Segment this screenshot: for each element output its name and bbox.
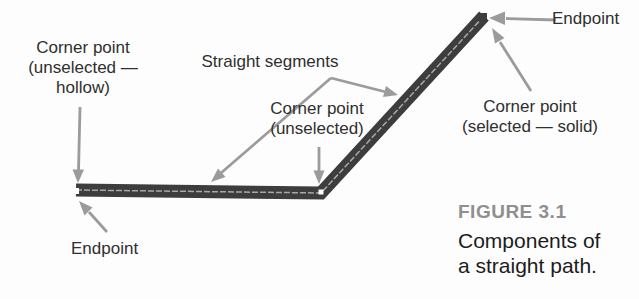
figure-caption-line: Components of bbox=[458, 228, 633, 253]
callout-straight-segments: Straight segments bbox=[190, 52, 350, 72]
arrow-straight-segments-to-diagonal-segment bbox=[331, 78, 398, 97]
endpoint-selected-solid-anchor bbox=[479, 13, 487, 21]
arrowhead-icon bbox=[73, 170, 85, 184]
callout-endpoint-bottom: Endpoint bbox=[71, 239, 156, 259]
endpoint-hollow-anchor bbox=[73, 188, 79, 194]
arrow-corner-unselected-to-corner-point bbox=[314, 147, 325, 184]
callout-line: Endpoint bbox=[71, 239, 156, 259]
arrow-endpoint-top-to-top-endpoint bbox=[489, 12, 556, 26]
arrow-endpoint-bottom-to-left-endpoint bbox=[79, 201, 107, 232]
callout-line: Endpoint bbox=[552, 9, 637, 29]
callout-line: Corner point bbox=[247, 99, 387, 119]
callout-corner-point-selected: Corner point (selected — solid) bbox=[450, 97, 610, 137]
figure-caption-line: a straight path. bbox=[458, 253, 633, 278]
arrow-corner-hollow-to-left-endpoint bbox=[73, 107, 85, 183]
callout-endpoint-top: Endpoint bbox=[552, 9, 637, 29]
callout-line: (unselected — bbox=[3, 58, 163, 78]
figure-caption-block: FIGURE 3.1 Components of a straight path… bbox=[458, 201, 633, 278]
callout-corner-point-unselected: Corner point (unselected) bbox=[247, 99, 387, 139]
figure-number-label: FIGURE 3.1 bbox=[458, 201, 633, 223]
arrow-corner-selected-to-top-endpoint bbox=[492, 28, 531, 91]
arrowhead-icon bbox=[492, 28, 505, 44]
arrowhead-icon bbox=[383, 86, 398, 97]
callout-line: hollow) bbox=[3, 78, 163, 98]
callout-line: Corner point bbox=[3, 38, 163, 58]
callout-line: Corner point bbox=[450, 97, 610, 117]
arrow-line bbox=[331, 78, 386, 92]
callout-corner-point-hollow: Corner point (unselected — hollow) bbox=[3, 38, 163, 98]
arrowhead-icon bbox=[489, 12, 505, 26]
callout-line: Straight segments bbox=[190, 52, 350, 72]
arrow-line bbox=[79, 107, 81, 171]
callout-line: (selected — solid) bbox=[450, 117, 610, 137]
arrow-line bbox=[506, 19, 556, 21]
corner-hollow-anchor bbox=[319, 190, 324, 195]
callout-line: (unselected) bbox=[247, 119, 387, 139]
arrow-line bbox=[89, 212, 107, 232]
figure-3-1-diagram: Corner point (unselected — hollow) Strai… bbox=[0, 0, 639, 299]
arrow-line bbox=[500, 42, 531, 91]
